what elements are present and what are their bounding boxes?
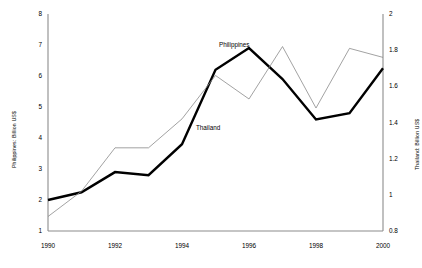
series-lines [48, 47, 383, 217]
series-annotation-thailand: Thailand [196, 124, 220, 131]
chart-container: Philippines: Billion US$ Thailand: Billi… [0, 0, 422, 268]
plot-area [0, 0, 422, 268]
series-annotation-philippines: Philippines [219, 41, 249, 48]
